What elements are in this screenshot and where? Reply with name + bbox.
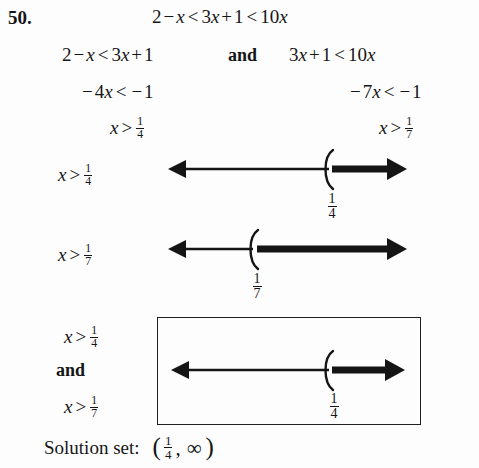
- numberline-intersection-tick-denominator: 4: [330, 407, 339, 421]
- numberline-quarter-left-arrowhead: [168, 160, 186, 178]
- numberline-seventh-right-arrowhead: [387, 238, 407, 260]
- intersection-labels: x>14 and x>17: [56, 325, 156, 425]
- intersection-label-bottom: x>17: [64, 395, 99, 420]
- original-rel-1: <: [185, 6, 202, 27]
- numberline-intersection-open-parenthesis: [326, 351, 334, 390]
- original-mid: 3x+1: [201, 6, 243, 27]
- solution-set-row: Solution set: (14,∞): [44, 434, 216, 462]
- numberline-intersection-left-arrowhead: [171, 361, 189, 379]
- split-right-inequality: 3x+1<10x: [289, 45, 375, 64]
- numberline-seventh-label: x>17: [58, 243, 93, 268]
- connector-and-intersection: and: [56, 361, 85, 379]
- numberline-intersection-right-arrowhead: [385, 359, 405, 381]
- numberline-seventh-open-parenthesis: [251, 230, 259, 269]
- result-left-denominator: 4: [136, 129, 144, 141]
- numberline-quarter-tick-denominator: 4: [328, 207, 337, 221]
- result-left-inequality: x>14: [110, 116, 145, 141]
- solution-set-interval: (14,∞): [151, 434, 216, 462]
- step-left-inequality: −4x<−1: [80, 82, 154, 101]
- numberline-quarter-label-denominator: 4: [84, 176, 92, 188]
- result-right-denominator: 7: [405, 129, 413, 141]
- original-inequality-row: 2−x<3x+1<10x: [152, 7, 288, 26]
- result-right-inequality: x>17: [379, 116, 414, 141]
- interval-comma: ,: [173, 436, 182, 460]
- numberline-seventh-left-arrowhead: [168, 240, 186, 258]
- step-right-inequality: −7x<−1: [348, 82, 422, 101]
- numberline-seventh-tick-denominator: 7: [253, 287, 262, 301]
- numberline-intersection-tick-numerator: 1: [330, 392, 339, 407]
- interval-close-paren: ): [204, 433, 216, 460]
- interval-open-paren: (: [151, 433, 163, 460]
- intersection-top-denominator: 4: [90, 338, 98, 350]
- numberline-intersection: [160, 351, 415, 399]
- numberline-seventh-label-denominator: 7: [84, 256, 92, 268]
- numberline-seventh-tick-numerator: 1: [253, 272, 262, 287]
- interval-numerator: 1: [164, 434, 173, 448]
- original-lhs: 2−x: [152, 6, 185, 27]
- intersection-label-top: x>14: [64, 325, 99, 350]
- numberline-quarter-label: x>14: [58, 163, 93, 188]
- numberline-quarter-open-parenthesis: [326, 150, 334, 189]
- original-rel-2: <: [244, 6, 261, 27]
- numberline-quarter: [160, 150, 415, 198]
- connector-and-top: and: [228, 46, 257, 64]
- numberline-seventh: [160, 230, 415, 278]
- intersection-bottom-denominator: 7: [90, 408, 98, 420]
- exercise-number: 50.: [8, 8, 32, 27]
- solution-set-prefix: Solution set:: [44, 438, 140, 457]
- interval-denominator: 4: [164, 448, 173, 461]
- numberline-quarter-right-arrowhead: [387, 158, 407, 180]
- numberline-quarter-tick-label: 14: [320, 192, 344, 222]
- numberline-quarter-tick-numerator: 1: [328, 192, 337, 207]
- infinity-symbol: ∞: [183, 436, 204, 460]
- numberline-seventh-tick-label: 17: [245, 272, 269, 302]
- numberline-intersection-tick-label: 14: [322, 392, 346, 422]
- original-rhs: 10x: [260, 6, 287, 27]
- split-left-inequality: 2−x<3x+1: [62, 45, 154, 64]
